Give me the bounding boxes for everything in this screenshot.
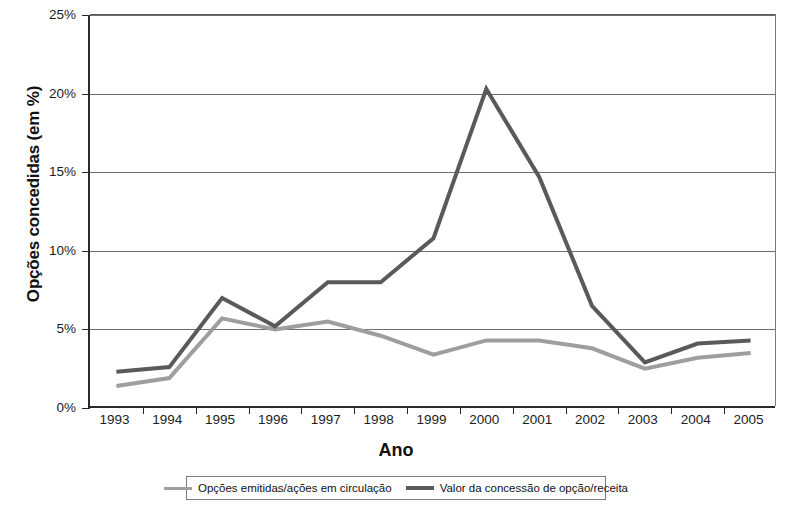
line-swatch-dark-icon	[406, 486, 434, 490]
y-axis-tick	[82, 172, 90, 173]
y-axis-tick	[82, 15, 90, 16]
y-axis-tick	[82, 94, 90, 95]
legend-label-0: Opções emitidas/ações em circulação	[198, 482, 392, 494]
y-axis-tick	[82, 408, 90, 409]
x-axis-title: Ano	[0, 440, 792, 461]
x-axis-tick-label: 1995	[190, 412, 250, 427]
legend-item-1: Valor da concessão de opção/receita	[406, 482, 628, 494]
line-swatch-light-icon	[164, 487, 192, 490]
x-axis-tick-label: 2005	[719, 412, 779, 427]
x-axis-tick-label: 1994	[137, 412, 197, 427]
y-axis-tick-label: 20%	[30, 86, 76, 101]
y-axis-tick-label: 15%	[30, 164, 76, 179]
chart-legend: Opções emitidas/ações em circulação Valo…	[186, 476, 606, 500]
x-axis-tick-label: 2000	[454, 412, 514, 427]
x-axis-tick-label: 2003	[613, 412, 673, 427]
series-line-0	[116, 318, 750, 386]
legend-item-0: Opções emitidas/ações em circulação	[164, 482, 392, 494]
y-axis-title: Opções concedidas (em %)	[24, 0, 54, 404]
x-axis-tick-label: 2004	[666, 412, 726, 427]
x-axis-tick-label: 1998	[349, 412, 409, 427]
x-axis-tick-label: 1999	[402, 412, 462, 427]
x-axis-tick-label: 1997	[296, 412, 356, 427]
y-axis-tick	[82, 329, 90, 330]
line-chart: Opções concedidas (em %) 0%5%10%15%20%25…	[0, 0, 792, 512]
series-lines	[90, 15, 777, 408]
y-axis-tick-label: 10%	[30, 243, 76, 258]
legend-label-1: Valor da concessão de opção/receita	[440, 482, 628, 494]
x-axis-tick-label: 2001	[507, 412, 567, 427]
x-axis-tick-label: 1996	[243, 412, 303, 427]
x-axis-tick-label: 2002	[560, 412, 620, 427]
y-axis-tick-label: 0%	[30, 400, 76, 415]
y-axis-tick-label: 25%	[30, 7, 76, 22]
y-axis-tick-label: 5%	[30, 321, 76, 336]
x-axis-tick-label: 1993	[84, 412, 144, 427]
y-axis-tick	[82, 251, 90, 252]
plot-area	[88, 15, 775, 408]
